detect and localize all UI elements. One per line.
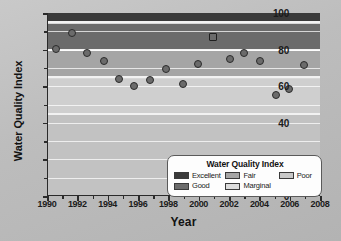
y-tick xyxy=(44,105,47,107)
legend-label: Excellent xyxy=(192,172,221,180)
legend-swatch-marginal xyxy=(225,183,240,190)
legend-item-poor: Poor xyxy=(279,171,316,180)
x-tick-label: 2006 xyxy=(280,199,299,209)
legend-item-marginal: Marginal xyxy=(225,182,275,191)
x-tick-label: 1990 xyxy=(38,199,57,209)
legend-title: Water Quality Index xyxy=(174,159,316,169)
data-point xyxy=(194,60,202,68)
y-tick xyxy=(43,123,48,125)
data-point xyxy=(240,49,248,57)
legend-label: Fair xyxy=(243,172,255,180)
legend-swatch-good xyxy=(174,183,189,190)
x-tick-label: 2002 xyxy=(220,199,239,209)
y-tick xyxy=(44,68,47,70)
x-tick-label: 2000 xyxy=(189,199,208,209)
x-tick-label: 2004 xyxy=(250,199,269,209)
y-tick xyxy=(43,50,48,52)
y-tick xyxy=(43,159,48,161)
y-axis-title: Water Quality Index xyxy=(12,31,24,191)
data-point xyxy=(272,91,280,99)
gridline xyxy=(48,105,320,106)
data-point xyxy=(300,61,308,69)
gridline xyxy=(48,68,320,69)
y-tick xyxy=(44,31,47,33)
x-tick xyxy=(62,196,64,199)
x-tick xyxy=(123,196,125,199)
data-point xyxy=(256,57,264,65)
gridline xyxy=(48,31,320,32)
y-tick xyxy=(44,178,47,180)
data-point xyxy=(115,75,123,83)
legend-column-2: FairMarginal xyxy=(225,171,275,191)
y-tick-label: 100 xyxy=(267,8,289,19)
x-tick-label: 2008 xyxy=(311,199,330,209)
data-point xyxy=(83,49,91,57)
data-point xyxy=(226,55,234,63)
x-tick-label: 1992 xyxy=(68,199,87,209)
y-tick-label: 80 xyxy=(267,44,289,55)
legend-label: Poor xyxy=(297,172,312,180)
data-point xyxy=(52,45,60,53)
data-point xyxy=(146,76,154,84)
data-point xyxy=(100,57,108,65)
legend-label: Marginal xyxy=(243,182,270,190)
legend-swatch-fair xyxy=(225,172,240,179)
legend-column-3: Poor xyxy=(279,171,316,191)
x-tick-label: 1996 xyxy=(129,199,148,209)
y-tick xyxy=(43,13,48,15)
x-tick xyxy=(93,196,95,199)
data-point xyxy=(130,82,138,90)
band-separator xyxy=(48,113,320,115)
legend-item-excellent: Excellent xyxy=(174,171,222,180)
y-tick-label: 40 xyxy=(267,117,289,128)
data-point xyxy=(209,33,217,41)
data-point xyxy=(162,65,170,73)
data-point xyxy=(179,80,187,88)
legend-item-good: Good xyxy=(174,182,222,191)
water-quality-index-chart: 020406080100 199019921994199619982000200… xyxy=(0,0,341,241)
y-tick xyxy=(43,86,48,88)
legend: Water Quality Index ExcellentGood FairMa… xyxy=(167,155,322,197)
legend-column-1: ExcellentGood xyxy=(174,171,222,191)
data-point xyxy=(68,29,76,37)
legend-swatch-excellent xyxy=(174,172,189,179)
x-axis-title: Year xyxy=(47,215,320,229)
legend-swatch-poor xyxy=(279,172,294,179)
y-tick xyxy=(44,141,47,143)
band-separator xyxy=(48,21,320,23)
x-tick-label: 1994 xyxy=(98,199,117,209)
x-tick-label: 1998 xyxy=(159,199,178,209)
legend-item-fair: Fair xyxy=(225,171,275,180)
band-separator xyxy=(48,76,320,78)
legend-label: Good xyxy=(192,182,210,190)
x-tick xyxy=(153,196,155,199)
y-tick-label: 60 xyxy=(267,81,289,92)
gridline xyxy=(48,141,320,142)
